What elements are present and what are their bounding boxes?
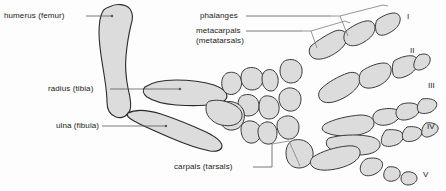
label-metacarpals: metacarpals [196,26,241,35]
label-ulna: ulna (fibula) [56,121,99,130]
digit-numeral-I: I [407,12,409,21]
carpal-bones-cluster [206,59,313,168]
label-metatarsals: (metatarsals) [196,36,244,45]
digit-I-bones [309,13,400,59]
label-humerus: humerus (femur) [4,11,65,20]
figure-canvas: .bone{fill:#dcdcdc;stroke:#2b2b2b;stroke… [0,0,446,191]
digit-numeral-III: III [428,81,435,90]
digit-numeral-II: II [410,46,414,55]
digit-numeral-V: V [423,170,428,179]
label-carpals: carpals (tarsals) [174,162,233,171]
label-phalanges: phalanges [200,11,238,20]
label-radius: radius (tibia) [48,84,93,93]
digit-numeral-IV: IV [427,122,435,131]
